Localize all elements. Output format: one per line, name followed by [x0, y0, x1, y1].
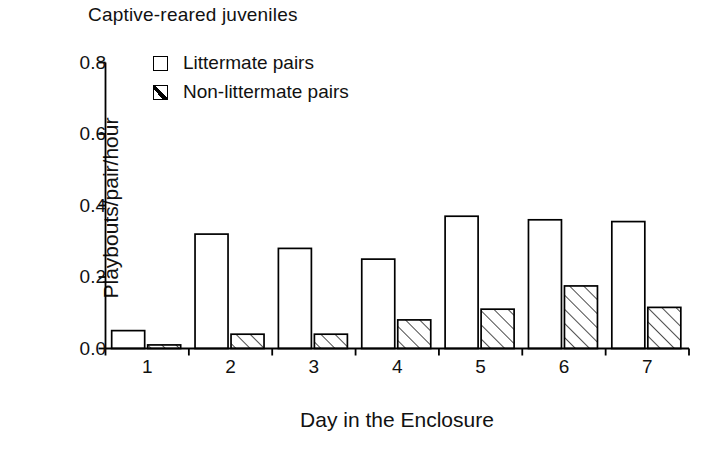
plot-svg — [0, 0, 711, 453]
bar-non-littermate — [648, 307, 681, 348]
bar-non-littermate — [231, 334, 264, 348]
y-tick-label: 0.8 — [54, 52, 106, 74]
bar-littermate — [195, 234, 228, 348]
bars-layer — [112, 216, 681, 348]
x-tick-label: 6 — [544, 356, 584, 378]
bar-littermate — [445, 216, 478, 348]
open-square-icon — [153, 56, 168, 71]
x-tick-label: 1 — [127, 356, 167, 378]
legend-item: Littermate pairs — [153, 50, 349, 76]
bar-non-littermate — [481, 309, 514, 348]
bar-non-littermate — [314, 334, 347, 348]
hatched-square-icon — [153, 85, 168, 100]
x-tick-label: 7 — [627, 356, 667, 378]
x-tick-label: 2 — [211, 356, 251, 378]
bar-littermate — [278, 248, 311, 348]
plot-area: 0.00.20.40.60.8 1234567 — [0, 0, 711, 453]
x-tick-label: 5 — [461, 356, 501, 378]
y-tick-label: 0.6 — [54, 123, 106, 145]
bar-littermate — [112, 331, 145, 349]
bar-littermate — [362, 259, 395, 348]
y-tick-label: 0.0 — [54, 338, 106, 360]
bar-non-littermate — [398, 320, 431, 349]
bar-littermate — [528, 220, 561, 349]
x-tick-label: 3 — [294, 356, 334, 378]
y-tick-label: 0.4 — [54, 195, 106, 217]
bar-littermate — [612, 222, 645, 349]
bar-non-littermate — [564, 286, 597, 349]
legend-item-label: Non-littermate pairs — [183, 81, 349, 103]
y-tick-label: 0.2 — [54, 266, 106, 288]
x-tick-label: 4 — [377, 356, 417, 378]
bar-chart-figure: Captive-reared juveniles Playbouts/pair/… — [0, 0, 711, 453]
legend-item-label: Littermate pairs — [183, 52, 314, 74]
chart-legend: Littermate pairsNon-littermate pairs — [153, 50, 349, 108]
legend-item: Non-littermate pairs — [153, 79, 349, 105]
